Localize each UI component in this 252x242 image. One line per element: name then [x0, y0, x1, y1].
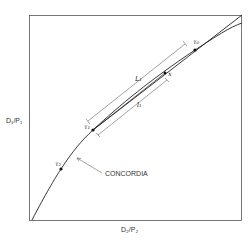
point-tau0 — [193, 48, 196, 51]
L1-label: L₁ — [135, 76, 142, 83]
concordia-leader — [77, 158, 102, 173]
y-axis-label: D₁/P₁ — [6, 117, 22, 124]
chord-line — [93, 73, 165, 130]
point-x — [164, 72, 167, 75]
tau0-label: τ₀ — [193, 39, 199, 46]
x-point-label: x — [168, 71, 172, 78]
x-axis-label: D₂/P₂ — [121, 226, 138, 233]
concordia-label: CONCORDIA — [105, 170, 148, 177]
l1-dimension-line — [98, 80, 167, 135]
tau2-label: τ₂ — [55, 161, 61, 168]
concordia-diagram — [0, 0, 252, 242]
point-tau1 — [91, 128, 94, 131]
l1-label: l₁ — [137, 102, 142, 109]
concordia-curve — [32, 23, 242, 220]
concordia-arrowhead — [77, 158, 81, 161]
plot-frame — [30, 16, 242, 221]
tau1-label: τ₁ — [84, 124, 90, 131]
